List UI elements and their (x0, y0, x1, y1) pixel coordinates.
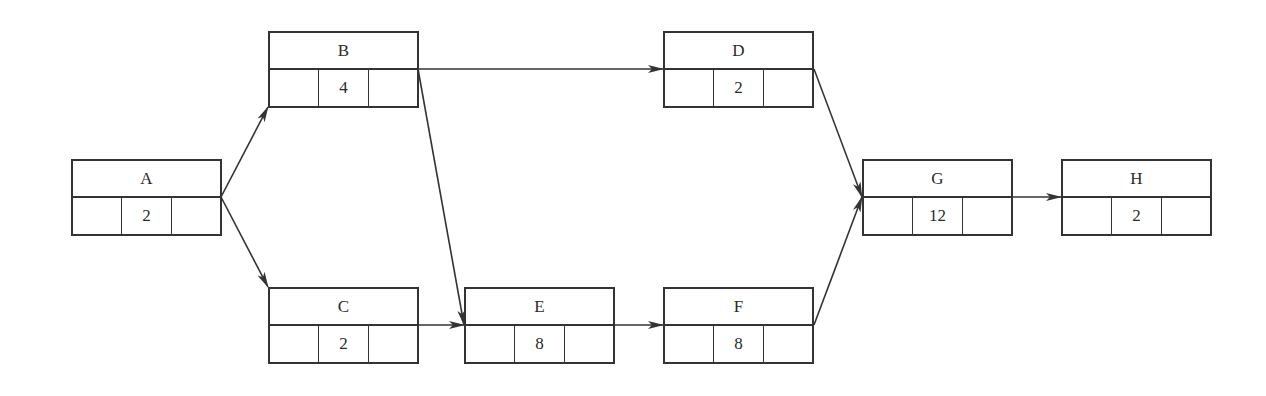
node-b: B 4 (268, 31, 419, 108)
node-b-label: B (270, 33, 417, 70)
node-f-duration: 8 (713, 326, 762, 362)
node-a: A 2 (71, 159, 222, 236)
node-d-duration: 2 (713, 70, 762, 106)
edge-d-to-g (814, 69, 862, 197)
node-c: C 2 (268, 287, 419, 364)
node-h-right-cell (1161, 198, 1210, 234)
node-f-label: F (665, 289, 812, 326)
node-e-right-cell (564, 326, 613, 362)
node-f: F 8 (663, 287, 814, 364)
node-e-left-cell (466, 326, 514, 362)
node-h-label: H (1063, 161, 1210, 198)
node-e-duration: 8 (514, 326, 563, 362)
node-h: H 2 (1061, 159, 1212, 236)
node-h-duration: 2 (1111, 198, 1160, 234)
node-e: E 8 (464, 287, 615, 364)
edge-a-to-c (221, 197, 268, 287)
node-c-label: C (270, 289, 417, 326)
edge-a-to-b (221, 107, 268, 197)
node-g: G 12 (862, 159, 1013, 236)
node-f-left-cell (665, 326, 713, 362)
node-e-label: E (466, 289, 613, 326)
node-h-left-cell (1063, 198, 1111, 234)
node-d-left-cell (665, 70, 713, 106)
node-a-duration: 2 (121, 198, 170, 234)
node-d-label: D (665, 33, 812, 70)
node-b-left-cell (270, 70, 318, 106)
node-d-right-cell (763, 70, 812, 106)
node-g-left-cell (864, 198, 912, 234)
node-a-right-cell (171, 198, 220, 234)
edge-f-to-g (814, 197, 862, 325)
node-c-left-cell (270, 326, 318, 362)
node-a-label: A (73, 161, 220, 198)
node-b-right-cell (368, 70, 417, 106)
node-f-right-cell (763, 326, 812, 362)
node-b-duration: 4 (318, 70, 367, 106)
node-a-left-cell (73, 198, 121, 234)
node-d: D 2 (663, 31, 814, 108)
node-g-label: G (864, 161, 1011, 198)
node-c-duration: 2 (318, 326, 367, 362)
node-g-right-cell (962, 198, 1011, 234)
node-g-duration: 12 (912, 198, 961, 234)
edge-b-to-e (418, 69, 464, 325)
node-c-right-cell (368, 326, 417, 362)
